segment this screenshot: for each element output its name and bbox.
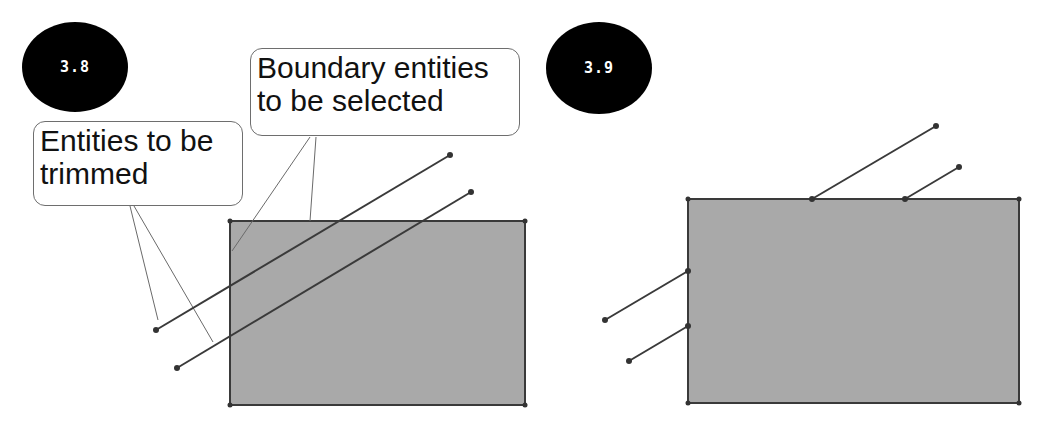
callout-line: Boundary entities [257,51,513,84]
callout-line: to be selected [257,84,513,117]
boundary-rectangle [688,199,1019,403]
callout-boundary-entities: Boundary entities to be selected [250,48,520,136]
callout-line: Entities to be [40,124,236,157]
callout-line: trimmed [40,157,236,190]
callout-entities-to-be-trimmed: Entities to be trimmed [33,121,243,206]
figure-3-9 [602,123,1022,406]
